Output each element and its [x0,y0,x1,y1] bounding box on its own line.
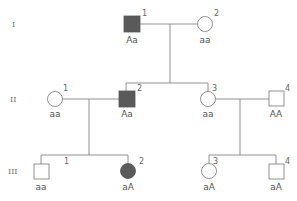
svg-text:2: 2 [137,84,142,93]
generation-label-II: II [10,95,16,104]
individual-II2-affected-male [119,91,135,107]
svg-text:1: 1 [64,157,69,166]
svg-text:4: 4 [285,84,290,93]
genotype-III1: aa [35,182,46,192]
individual-III2-affected-female [121,164,136,179]
individual-II4-male [269,91,284,106]
individual-I2-female [198,17,213,32]
genotype-I1: Aa [126,35,138,45]
generation-label-III: III [8,167,17,176]
genotype-III3: aA [203,182,216,192]
generation-label-I: I [12,20,15,29]
genotype-II2: Aa [121,109,133,119]
individual-III4-male [269,164,284,179]
svg-text:2: 2 [214,9,219,18]
svg-text:2: 2 [139,157,144,166]
genotype-I2: aa [199,35,210,45]
pedigree-chart: I II III 1 Aa 2 aa 1 aa 2 Aa 3 aa 4 AA 1… [0,0,297,201]
genotype-III4: aA [270,182,283,192]
genotype-II3: aa [202,109,213,119]
individual-III1-male [34,164,49,179]
genotype-II1: aa [49,109,60,119]
individual-II1-female [48,92,63,107]
genotype-II4: AA [270,109,283,119]
svg-text:1: 1 [142,9,147,18]
individual-I1-affected-male [124,16,140,32]
pedigree-lines [41,24,276,164]
svg-text:1: 1 [63,84,68,93]
individual-II3-female [201,92,216,107]
svg-text:4: 4 [285,157,290,166]
genotype-III2: aA [122,182,135,192]
svg-text:3: 3 [213,157,218,166]
svg-text:3: 3 [212,84,217,93]
